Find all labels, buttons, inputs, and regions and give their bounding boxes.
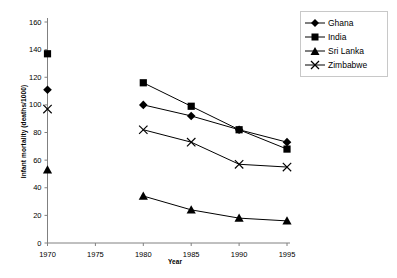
series-line (143, 130, 287, 167)
y-tick-label: 140 (29, 45, 42, 54)
legend-marker-diamond-icon (304, 17, 326, 29)
x-tick-label: 1990 (231, 250, 248, 259)
legend-marker-triangle-icon (304, 45, 326, 57)
data-point-diamond (139, 101, 148, 110)
legend-item: India (304, 30, 383, 44)
legend-item: Zimbabwe (304, 58, 383, 72)
data-point-diamond (283, 138, 292, 147)
data-point-cross (187, 138, 195, 146)
data-point-square (188, 103, 195, 110)
legend: Ghana India Sri Lanka Zimbabwe (300, 11, 388, 77)
data-point-triangle (43, 165, 52, 173)
legend-label: India (326, 32, 346, 42)
data-point-square (236, 126, 243, 133)
data-point-triangle (139, 191, 148, 199)
series-india (44, 50, 291, 153)
y-tick-label: 0 (37, 239, 41, 248)
series-sri-lanka (43, 165, 292, 224)
y-tick-label: 120 (29, 73, 42, 82)
y-tick-label: 60 (33, 156, 41, 165)
data-point-diamond (43, 85, 52, 94)
legend-item: Sri Lanka (304, 44, 383, 58)
x-tick-label: 1970 (39, 250, 56, 259)
data-point-square (44, 50, 51, 57)
series-line (143, 196, 287, 221)
y-tick-label: 80 (33, 128, 41, 137)
x-axis-title: Year (120, 258, 230, 265)
series-line (143, 83, 287, 149)
legend-marker-cross-icon (304, 59, 326, 71)
y-axis-title: Infant mortality (deaths/1000) (20, 67, 27, 197)
legend-label: Zimbabwe (326, 60, 367, 70)
x-tick-label: 1975 (87, 250, 104, 259)
data-point-cross (139, 126, 147, 134)
series-line (143, 105, 287, 142)
data-point-square (283, 145, 290, 152)
data-point-square (140, 79, 147, 86)
y-tick-label: 40 (33, 183, 41, 192)
legend-label: Sri Lanka (326, 46, 364, 56)
x-tick-label: 1995 (279, 250, 296, 259)
y-tick-label: 20 (33, 211, 41, 220)
y-tick-label: 100 (29, 100, 42, 109)
legend-marker-square-icon (304, 31, 326, 43)
data-point-diamond (187, 112, 196, 121)
infant-mortality-line-chart: 0204060801001201401601970197519801985199… (0, 0, 397, 278)
legend-item: Ghana (304, 16, 383, 30)
series-zimbabwe (43, 105, 291, 171)
y-tick-label: 160 (29, 18, 42, 27)
legend-label: Ghana (326, 18, 354, 28)
